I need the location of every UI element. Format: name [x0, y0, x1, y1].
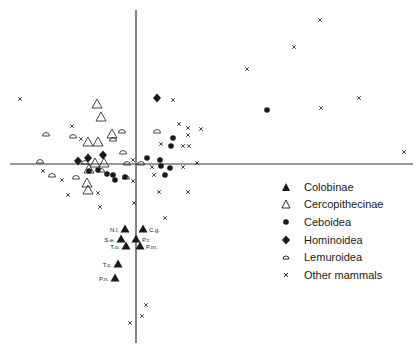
marker-hominoidea	[84, 154, 92, 163]
marker-other-mammals	[132, 201, 136, 205]
marker-other-mammals	[131, 179, 135, 183]
marker-ceboidea	[112, 177, 118, 183]
marker-lemuroidea	[154, 130, 161, 134]
marker-ceboidea	[162, 172, 168, 178]
marker-other-mammals	[171, 98, 175, 102]
marker-other-mammals	[245, 67, 249, 71]
marker-lemuroidea	[43, 133, 50, 137]
legend-item-other-mammals: Other mammals	[276, 266, 384, 284]
marker-other-mammals	[70, 124, 74, 128]
marker-other-mammals	[187, 144, 191, 148]
marker-ceboidea	[158, 163, 164, 169]
legend-label: Lemuroidea	[304, 251, 362, 263]
marker-colobinae	[111, 274, 120, 282]
marker-ceboidea	[264, 107, 270, 113]
point-annotations: N.l.C.g.S.e.P.r.T.o.P.m.T.c.P.n.	[99, 227, 160, 282]
marker-ceboidea	[144, 155, 150, 161]
marker-other-mammals	[98, 205, 102, 209]
filled-circle-icon	[276, 216, 296, 228]
marker-ceboidea	[170, 135, 176, 141]
marker-other-mammals	[292, 45, 296, 49]
marker-other-mammals	[159, 142, 163, 146]
legend-item-lemuroidea: Lemuroidea	[276, 248, 384, 266]
x-mark-icon	[276, 269, 296, 281]
legend-item-colobinae: Colobinae	[276, 178, 384, 196]
marker-colobinae	[132, 235, 141, 243]
marker-other-mammals	[96, 191, 100, 195]
marker-lemuroidea	[73, 176, 80, 179]
point-label: C.g.	[149, 227, 160, 233]
marker-cercopithecinae	[92, 99, 102, 108]
marker-other-mammals	[318, 18, 322, 22]
point-label: P.n.	[99, 276, 109, 282]
marker-ceboidea	[157, 157, 163, 163]
marker-lemuroidea	[119, 130, 126, 134]
legend-label: Colobinae	[304, 181, 354, 193]
marker-other-mammals	[357, 96, 361, 100]
marker-other-mammals	[186, 126, 190, 130]
legend-item-ceboidea: Ceboidea	[276, 213, 384, 231]
open-triangle-icon	[276, 198, 296, 210]
marker-other-mammals	[140, 314, 144, 318]
point-label: T.o.	[110, 244, 120, 250]
marker-other-mammals	[181, 165, 185, 169]
marker-cercopithecinae	[90, 158, 100, 167]
marker-ceboidea	[168, 143, 174, 149]
marker-colobinae	[139, 225, 148, 233]
marker-lemuroidea	[70, 135, 77, 139]
point-label: T.c.	[103, 262, 113, 268]
marker-cercopithecinae	[96, 112, 106, 121]
half-circle-icon	[276, 251, 296, 263]
marker-cercopithecinae	[82, 178, 92, 187]
marker-other-mammals	[128, 321, 132, 325]
marker-ceboidea	[110, 172, 116, 178]
marker-colobinae	[117, 235, 126, 243]
marker-other-mammals	[131, 158, 135, 162]
marker-ceboidea	[104, 171, 110, 177]
marker-cercopithecinae	[107, 129, 117, 138]
marker-other-mammals	[199, 127, 203, 131]
point-label: N.l.	[110, 227, 119, 233]
filled-diamond-icon	[276, 234, 296, 246]
point-label: S.e.	[104, 237, 115, 243]
marker-other-mammals	[186, 190, 190, 194]
marker-lemuroidea	[120, 151, 127, 154]
marker-other-mammals	[402, 150, 406, 154]
marker-hominoidea	[153, 94, 161, 103]
marker-ceboidea	[167, 165, 173, 171]
marker-colobinae	[121, 225, 130, 233]
marker-cercopithecinae	[83, 137, 93, 146]
legend-label: Ceboidea	[304, 216, 351, 228]
marker-colobinae	[114, 260, 123, 268]
marker-other-mammals	[60, 178, 64, 182]
marker-other-mammals	[66, 193, 70, 197]
marker-other-mammals	[181, 144, 185, 148]
marker-hominoidea	[99, 151, 107, 160]
marker-other-mammals	[152, 173, 156, 177]
marker-other-mammals	[150, 165, 154, 169]
marker-other-mammals	[186, 133, 190, 137]
marker-other-mammals	[79, 137, 83, 141]
marker-other-mammals	[319, 106, 323, 110]
marker-ceboidea	[86, 168, 92, 174]
marker-other-mammals	[144, 303, 148, 307]
legend-label: Cercopithecinae	[304, 198, 384, 210]
point-label: P.m.	[146, 244, 158, 250]
marker-other-mammals	[157, 190, 161, 194]
legend-label: Other mammals	[304, 269, 382, 281]
marker-other-mammals	[177, 122, 181, 126]
legend-label: Hominoidea	[304, 234, 363, 246]
filled-triangle-icon	[276, 181, 296, 193]
marker-other-mammals	[41, 169, 45, 173]
marker-colobinae	[122, 242, 131, 250]
marker-lemuroidea	[37, 160, 44, 164]
legend-item-cercopithecinae: Cercopithecinae	[276, 196, 384, 214]
legend-item-hominoidea: Hominoidea	[276, 231, 384, 249]
legend: Colobinae Cercopithecinae Ceboidea Homin…	[276, 178, 384, 284]
marker-other-mammals	[18, 97, 22, 101]
marker-lemuroidea	[49, 174, 56, 178]
marker-cercopithecinae	[99, 158, 109, 167]
marker-other-mammals	[163, 216, 167, 220]
scatter-plot: N.l.C.g.S.e.P.r.T.o.P.m.T.c.P.n.	[0, 0, 420, 354]
marker-cercopithecinae	[93, 137, 103, 146]
